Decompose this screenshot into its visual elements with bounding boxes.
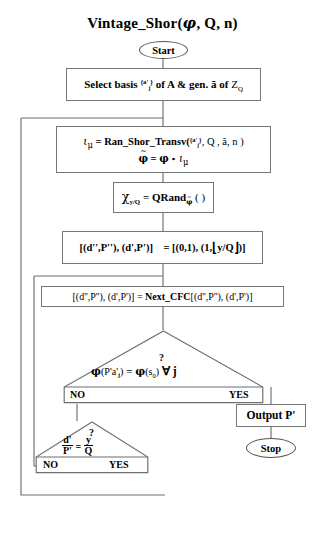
node-decision-frac[interactable]: ? d'P' = yQ NO YES [35, 421, 149, 474]
title-rest: , Q, n) [196, 15, 237, 31]
node-output-label: Output P' [247, 409, 296, 422]
decision-phi-question-mark: ? [159, 352, 164, 363]
title-phi: φ [183, 14, 197, 32]
node-start-label: Start [152, 45, 175, 56]
node-transv-line1: ιμ = Ran_Shor_Transv({a'j}, Q , ã, n ) [83, 135, 243, 148]
title-name: Vintage_Shor( [87, 15, 182, 31]
node-stop-label: Stop [261, 443, 281, 454]
decision-frac-no-label: NO [43, 459, 58, 470]
node-init-pairs[interactable]: [(d'',P''), (d',P')] = [(0,1), (1,⌊y/Q⌋)… [62, 231, 263, 264]
node-transv-line2: ~φ = φ ∘ ιμ [138, 152, 188, 165]
node-next-cfc-text: [(d'',P''), (d',P')] = Next_CFC[(d'',P''… [72, 291, 252, 303]
node-start[interactable]: Start [139, 41, 188, 59]
decision-phi-no-label: NO [70, 389, 85, 400]
node-select-basis-text: Select basis {a'j} of A & gen. ã of ZQ [84, 78, 243, 91]
node-next-cfc[interactable]: [(d'',P''), (d',P')] = Next_CFC[(d'',P''… [41, 286, 284, 307]
node-stop[interactable]: Stop [246, 438, 296, 458]
decision-frac-condition: d'P' = yQ [62, 435, 93, 456]
decision-phi-condition: φ(P'a'j) = φ(s0) ∀ j [91, 364, 177, 378]
node-init-pairs-text: [(d'',P''), (d',P')] = [(0,1), (1,⌊y/Q⌋)… [79, 240, 245, 255]
node-ran-shor-transv[interactable]: ιμ = Ran_Shor_Transv({a'j}, Q , ã, n ) ~… [56, 126, 271, 173]
page-title: Vintage_Shor(φ, Q, n) [0, 14, 325, 32]
decision-frac-yes-label: YES [109, 459, 128, 470]
node-select-basis[interactable]: Select basis {a'j} of A & gen. ã of ZQ [66, 68, 261, 101]
node-qrand[interactable]: χy/Q = QRand~φ ( ) [113, 182, 214, 213]
node-output[interactable]: Output P' [236, 404, 306, 427]
decision-phi-yes-label: YES [229, 389, 248, 400]
node-qrand-text: χy/Q = QRand~φ ( ) [122, 190, 205, 205]
node-decision-phi[interactable]: ? φ(P'a'j) = φ(s0) ∀ j NO YES [63, 330, 264, 404]
